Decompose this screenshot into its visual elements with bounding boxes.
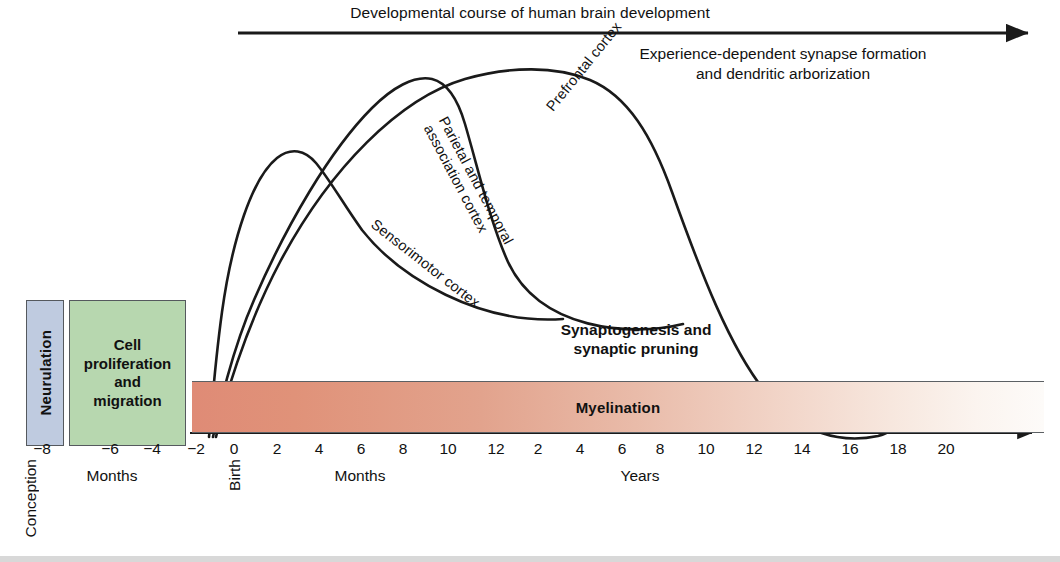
x-tick-year-1: 4 — [576, 440, 585, 458]
x-tick-prenatal-0: −8 — [33, 440, 51, 458]
x-tick-year-4: 10 — [697, 440, 714, 458]
phase-box-neurulation: Neurulation — [26, 300, 64, 446]
cell-proliferation-line-2: proliferation — [84, 355, 172, 374]
diagram-canvas — [0, 0, 1060, 562]
x-tick-year-5: 12 — [745, 440, 762, 458]
x-tick-prenatal-1: −6 — [101, 440, 119, 458]
synaptogenesis-line-2: synaptic pruning — [516, 339, 756, 358]
x-tick-year-3: 8 — [656, 440, 665, 458]
x-axis-section-prenatal-months: Months — [87, 467, 138, 485]
phase-box-cell-proliferation-label: Cell proliferation and migration — [84, 336, 172, 410]
myelination-band: Myelination — [192, 381, 1044, 433]
synaptogenesis-line-1: Synaptogenesis and — [516, 320, 756, 339]
x-tick-month-0: 0 — [230, 440, 239, 458]
x-tick-year-0: 2 — [534, 440, 543, 458]
myelination-label: Myelination — [576, 399, 661, 416]
synaptogenesis-caption: Synaptogenesis and synaptic pruning — [516, 320, 756, 358]
x-axis-section-years: Years — [620, 467, 659, 485]
x-tick-month-2: 4 — [315, 440, 324, 458]
x-tick-month-4: 8 — [399, 440, 408, 458]
x-tick-prenatal-2: −4 — [143, 440, 161, 458]
x-tick-year-8: 18 — [889, 440, 906, 458]
axis-label-birth: Birth — [226, 459, 244, 491]
cell-proliferation-line-3: and — [84, 373, 172, 392]
cell-proliferation-line-1: Cell — [84, 336, 172, 355]
cell-proliferation-line-4: migration — [84, 392, 172, 411]
x-tick-year-2: 6 — [618, 440, 627, 458]
x-axis-section-postnatal-months: Months — [335, 467, 386, 485]
x-tick-prenatal-3: −2 — [187, 440, 205, 458]
x-tick-month-3: 6 — [357, 440, 366, 458]
x-tick-month-1: 2 — [273, 440, 282, 458]
page-bottom-edge — [0, 556, 1060, 562]
x-tick-year-6: 14 — [793, 440, 810, 458]
x-tick-month-5: 10 — [439, 440, 456, 458]
brain-development-figure: Developmental course of human brain deve… — [0, 0, 1060, 562]
x-tick-year-9: 20 — [937, 440, 954, 458]
phase-box-cell-proliferation: Cell proliferation and migration — [69, 300, 186, 446]
x-tick-month-6: 12 — [487, 440, 504, 458]
axis-label-conception: Conception — [22, 459, 40, 537]
phase-box-neurulation-label: Neurulation — [37, 330, 54, 416]
x-tick-year-7: 16 — [841, 440, 858, 458]
